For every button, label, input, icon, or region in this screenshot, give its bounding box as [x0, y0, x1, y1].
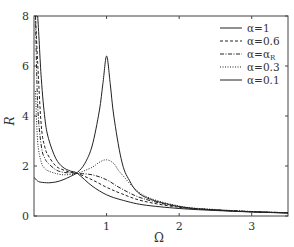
x-tick-label: 3 [248, 220, 255, 233]
x-tick-label: 2 [176, 220, 183, 233]
legend-entry: α=αR [220, 48, 276, 62]
y-tick-label: 4 [22, 110, 29, 123]
svg-text:α=1: α=1 [247, 22, 270, 34]
x-axis-label: Ω [154, 231, 164, 245]
svg-text:α=0.3: α=0.3 [247, 61, 280, 73]
chart: 02468 123 R Ω α=1 α=0.6 α=αR α=0.3 α=0.1 [0, 0, 294, 247]
y-tick-label: 6 [22, 60, 29, 73]
legend: α=1 α=0.6 α=αR α=0.3 α=0.1 [220, 22, 280, 86]
y-axis-label: R [3, 116, 17, 126]
svg-text:α=αR: α=αR [247, 48, 276, 62]
legend-entry: α=0.6 [220, 35, 280, 47]
y-tick-label: 8 [22, 10, 29, 23]
svg-text:α=0.6: α=0.6 [247, 35, 280, 47]
svg-text:α=0.1: α=0.1 [247, 74, 280, 86]
legend-entry: α=0.3 [220, 61, 280, 73]
y-tick-label: 2 [22, 160, 29, 173]
y-tick-label: 0 [22, 210, 29, 223]
x-axis: 123 [103, 16, 255, 233]
legend-entry: α=0.1 [220, 74, 280, 86]
series-line [36, 91, 289, 213]
legend-entry: α=1 [220, 22, 270, 34]
x-tick-label: 1 [103, 220, 110, 233]
